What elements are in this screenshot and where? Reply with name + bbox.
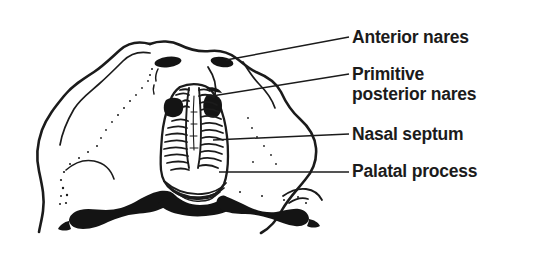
- stipple-dot: [149, 74, 151, 76]
- turbinate-ridge: [199, 165, 218, 168]
- stipple-dot: [261, 195, 263, 197]
- stipple-dot: [65, 202, 67, 204]
- stipple-dot: [60, 195, 62, 197]
- turbinate-ridge: [165, 155, 188, 157]
- lower-right-fold-inner: [289, 198, 308, 203]
- stipple-dot: [117, 114, 119, 116]
- stipple-dot: [151, 68, 153, 70]
- turbinate-ridge: [183, 100, 189, 101]
- turbinate-ridge: [201, 151, 222, 154]
- turbinate-ridge: [164, 148, 187, 150]
- stipple-dot: [69, 163, 71, 165]
- stipple-dot: [100, 137, 102, 139]
- turbinate-ridge: [202, 130, 223, 133]
- stipple-dot: [147, 80, 149, 82]
- turbinate-ridge: [168, 127, 187, 129]
- right-cheek-ridge: [243, 62, 275, 108]
- left-palatal-process: [69, 191, 175, 229]
- turbinate-ridge: [202, 123, 222, 126]
- label-primitive-posterior-nares: Primitive posterior nares: [352, 64, 476, 104]
- turbinate-ridge: [171, 169, 189, 171]
- stipple-dot: [251, 127, 253, 129]
- anatomical-figure: Anterior nares Primitive posterior nares…: [0, 0, 542, 263]
- leader-line-anterior-nares: [226, 37, 349, 60]
- turbinate-ridge: [165, 141, 187, 143]
- left-anterior-naris: [154, 55, 182, 69]
- right-palatal-process-tip: [307, 219, 320, 228]
- stipple-dot: [252, 161, 254, 163]
- turbinate-ridge: [172, 120, 188, 122]
- right-anterior-naris: [210, 55, 234, 68]
- stipple-dot: [275, 163, 277, 165]
- turbinate-ridge: [180, 89, 189, 90]
- stipple-dot: [63, 171, 65, 173]
- stipple-dot: [239, 191, 241, 193]
- left-inner-fold: [66, 160, 114, 179]
- left-posterior-naris-wedge: [164, 98, 184, 117]
- stipple-dot: [305, 202, 307, 204]
- turbinate-ridge: [201, 144, 223, 147]
- leader-line-nasal-septum: [213, 134, 349, 140]
- stipple-dot: [141, 87, 143, 89]
- left-palatal-process-tip: [58, 221, 71, 231]
- right-posterior-naris-wedge: [203, 94, 222, 118]
- stipple-dot: [66, 194, 68, 196]
- stipple-dot: [247, 117, 249, 119]
- leader-lines-group: [212, 37, 349, 172]
- stipple-dot: [129, 100, 131, 102]
- label-nasal-septum: Nasal septum: [352, 124, 463, 144]
- stipple-dot: [96, 145, 98, 147]
- stipple-dot: [283, 199, 285, 201]
- naris-tail-group: [153, 69, 158, 94]
- septum-midline: [193, 96, 194, 150]
- stipple-dot: [263, 145, 265, 147]
- turbinate-ridge: [176, 94, 189, 96]
- stipple-dot: [87, 151, 89, 153]
- stipple-dot: [123, 107, 125, 109]
- left-naris-crease-lower: [153, 85, 154, 94]
- stipple-dot: [111, 121, 113, 123]
- stipple-dot: [135, 94, 137, 96]
- left-cheek-ridge: [60, 52, 150, 145]
- label-palatal-process: Palatal process: [352, 161, 477, 181]
- turbinate-ridge: [183, 106, 189, 107]
- turbinate-ridge: [199, 89, 210, 91]
- turbinate-ridge: [167, 162, 188, 164]
- stipple-dot: [59, 203, 61, 205]
- left-naris-crease: [156, 69, 158, 81]
- septum-right-border: [198, 88, 201, 168]
- turbinate-ridge: [166, 134, 187, 136]
- turbinate-ridge: [200, 158, 221, 161]
- stipple-dot: [62, 187, 64, 189]
- stipple-dot: [78, 157, 80, 159]
- stipple-dot: [105, 129, 107, 131]
- stipple-dot: [270, 154, 272, 156]
- anterior-nares-group: [154, 55, 234, 69]
- label-anterior-nares: Anterior nares: [352, 27, 469, 47]
- stipple-dot: [60, 179, 62, 181]
